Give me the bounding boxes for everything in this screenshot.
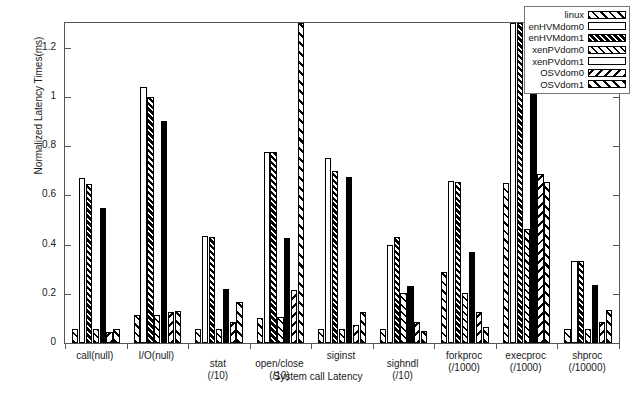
- bar-enHVMdom1-open/close: [270, 152, 276, 343]
- y-tick-label: 0.6: [20, 188, 56, 199]
- bar-linux-execproc: [503, 183, 509, 343]
- y-tick-right: [613, 245, 619, 246]
- x-tick: [250, 344, 251, 349]
- legend-item-OSVdom0: OSVdom0: [528, 67, 626, 79]
- y-tick-right: [613, 97, 619, 98]
- x-tick: [188, 344, 189, 349]
- x-category-name: sighndl: [387, 358, 419, 369]
- bar-xenPVdom0-call(null): [93, 329, 99, 343]
- bar-xenPVdom1-stat: [223, 289, 229, 343]
- bar-OSVdom1-forkproc: [483, 327, 489, 343]
- bar-enHVMdom1-call(null): [86, 184, 92, 343]
- bar-xenPVdom0-sighndl: [400, 293, 406, 343]
- legend-label: enHVMdom0: [529, 21, 584, 32]
- y-tick: [65, 294, 71, 295]
- legend-item-OSVdom1: OSVdom1: [528, 79, 626, 91]
- bar-enHVMdom1-I/O(null): [147, 97, 153, 343]
- bar-xenPVdom1-siginst: [346, 177, 352, 343]
- bar-OSVdom0-sighndl: [414, 322, 420, 343]
- bar-linux-forkproc: [441, 272, 447, 343]
- x-tick: [311, 344, 312, 349]
- bar-linux-call(null): [72, 329, 78, 343]
- y-tick-label: 0.2: [20, 287, 56, 298]
- bar-xenPVdom1-execproc: [530, 85, 536, 343]
- y-tick-right: [613, 195, 619, 196]
- bar-OSVdom0-open/close: [291, 290, 297, 343]
- y-tick-label: 0: [20, 336, 56, 347]
- legend-item-xenPVdom0: xenPVdom0: [528, 44, 626, 56]
- bar-OSVdom1-siginst: [360, 312, 366, 343]
- legend-swatch: [588, 46, 626, 54]
- legend-swatch: [588, 11, 626, 19]
- y-tick: [65, 146, 71, 147]
- legend-item-linux: linux: [528, 9, 626, 21]
- bar-enHVMdom0-stat: [202, 236, 208, 343]
- bar-xenPVdom0-siginst: [339, 329, 345, 343]
- bar-linux-siginst: [318, 329, 324, 343]
- x-axis-title: System call Latency: [0, 371, 636, 382]
- bar-OSVdom1-shproc: [606, 310, 612, 343]
- x-category-name: execproc: [505, 350, 546, 361]
- legend-item-enHVMdom1: enHVMdom1: [528, 32, 626, 44]
- legend-swatch: [588, 57, 626, 65]
- bar-enHVMdom0-open/close: [264, 152, 270, 343]
- legend-label: enHVMdom1: [529, 32, 584, 43]
- legend-label: OSVdom0: [540, 67, 584, 78]
- legend-swatch: [588, 69, 626, 77]
- y-tick-right: [613, 146, 619, 147]
- legend-swatch: [588, 34, 626, 42]
- x-tick: [557, 344, 558, 349]
- bar-OSVdom1-execproc: [544, 182, 550, 343]
- bar-linux-shproc: [564, 329, 570, 343]
- bar-enHVMdom0-shproc: [571, 261, 577, 343]
- bar-xenPVdom0-I/O(null): [154, 315, 160, 343]
- x-category-name: shproc: [572, 350, 602, 361]
- bar-enHVMdom1-forkproc: [455, 182, 461, 343]
- legend: linuxenHVMdom0enHVMdom1xenPVdom0xenPVdom…: [524, 6, 630, 94]
- bar-OSVdom0-forkproc: [476, 312, 482, 343]
- bar-xenPVdom0-execproc: [524, 229, 530, 343]
- bar-enHVMdom1-siginst: [332, 171, 338, 343]
- x-tick: [127, 344, 128, 349]
- x-tick: [373, 344, 374, 349]
- bar-OSVdom1-stat: [236, 302, 242, 343]
- x-tick: [496, 344, 497, 349]
- bar-enHVMdom1-sighndl: [394, 237, 400, 343]
- y-tick-label: 1: [20, 90, 56, 101]
- y-tick: [65, 97, 71, 98]
- y-tick-label: 0.8: [20, 139, 56, 150]
- y-tick: [65, 245, 71, 246]
- bar-enHVMdom0-call(null): [79, 178, 85, 343]
- bar-OSVdom0-stat: [230, 322, 236, 343]
- bar-OSVdom1-open/close: [298, 23, 304, 343]
- bar-enHVMdom1-shproc: [578, 261, 584, 343]
- x-tick: [65, 344, 66, 349]
- legend-item-xenPVdom1: xenPVdom1: [528, 55, 626, 67]
- x-tick: [619, 344, 620, 349]
- bar-OSVdom1-sighndl: [421, 331, 427, 343]
- bar-chart: Normalized Latency Times(ms) 00.20.40.60…: [0, 0, 636, 397]
- bar-enHVMdom1-execproc: [517, 23, 523, 343]
- bar-enHVMdom1-stat: [209, 237, 215, 343]
- bar-enHVMdom0-I/O(null): [140, 87, 146, 343]
- bar-xenPVdom0-forkproc: [462, 293, 468, 343]
- bar-enHVMdom0-forkproc: [448, 181, 454, 343]
- bar-enHVMdom0-siginst: [325, 158, 331, 343]
- legend-swatch: [588, 80, 626, 88]
- bar-OSVdom1-I/O(null): [175, 311, 181, 343]
- bar-enHVMdom0-execproc: [510, 23, 516, 343]
- bar-OSVdom0-call(null): [106, 332, 112, 343]
- x-tick: [434, 344, 435, 349]
- bar-xenPVdom1-forkproc: [469, 252, 475, 343]
- legend-label: xenPVdom0: [532, 44, 584, 55]
- bar-OSVdom0-I/O(null): [168, 312, 174, 343]
- bar-OSVdom0-siginst: [353, 325, 359, 343]
- bar-linux-open/close: [257, 318, 263, 343]
- x-category-name: siginst: [327, 350, 355, 361]
- bar-xenPVdom1-open/close: [284, 238, 290, 343]
- bar-OSVdom0-execproc: [537, 174, 543, 343]
- legend-item-enHVMdom0: enHVMdom0: [528, 21, 626, 33]
- y-tick: [65, 48, 71, 49]
- bar-linux-I/O(null): [134, 315, 140, 343]
- bar-xenPVdom1-sighndl: [407, 286, 413, 343]
